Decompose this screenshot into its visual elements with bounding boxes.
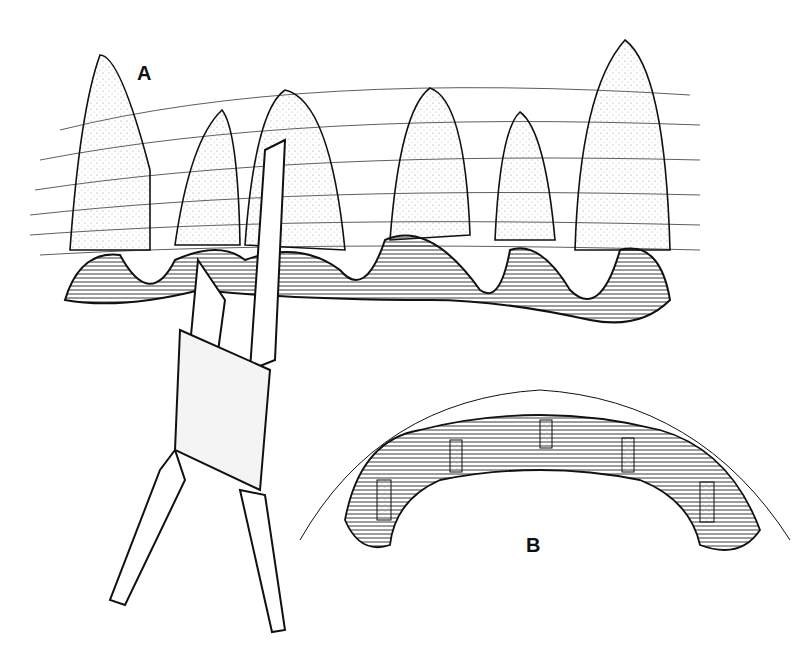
panel-b-label: B xyxy=(526,534,540,557)
pliers-handle-right xyxy=(240,490,285,632)
interproximal-5 xyxy=(700,482,714,522)
interproximal-4 xyxy=(622,438,634,472)
illustration-svg xyxy=(0,0,812,659)
tooth-4 xyxy=(390,88,470,240)
panel-a-label: A xyxy=(137,62,151,85)
tooth-2 xyxy=(175,110,240,245)
dental-illustration: A B xyxy=(0,0,812,659)
interproximal-3 xyxy=(540,420,552,448)
interproximal-2 xyxy=(450,440,462,472)
tooth-5 xyxy=(495,112,555,240)
arch-view xyxy=(300,390,790,550)
teeth xyxy=(70,40,670,250)
interproximal-1 xyxy=(377,480,391,520)
tooth-6 xyxy=(575,40,670,250)
pliers-handle-left xyxy=(110,450,185,605)
